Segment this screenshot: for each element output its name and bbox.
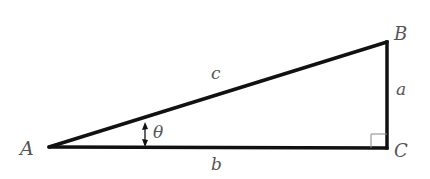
side-label-c: c — [211, 63, 221, 83]
angle-theta-arrow — [142, 122, 148, 147]
triangle-diagram: A B C a b c θ — [0, 0, 430, 179]
angle-label-theta: θ — [153, 122, 163, 142]
side-b-line — [49, 147, 387, 148]
vertex-label-b: B — [393, 23, 407, 44]
triangle — [49, 42, 387, 148]
vertex-label-a: A — [18, 137, 34, 159]
side-label-b: b — [211, 154, 222, 174]
vertex-label-c: C — [394, 140, 408, 161]
right-angle-mark — [371, 134, 387, 148]
side-c-line — [49, 42, 387, 147]
side-label-a: a — [396, 79, 406, 99]
